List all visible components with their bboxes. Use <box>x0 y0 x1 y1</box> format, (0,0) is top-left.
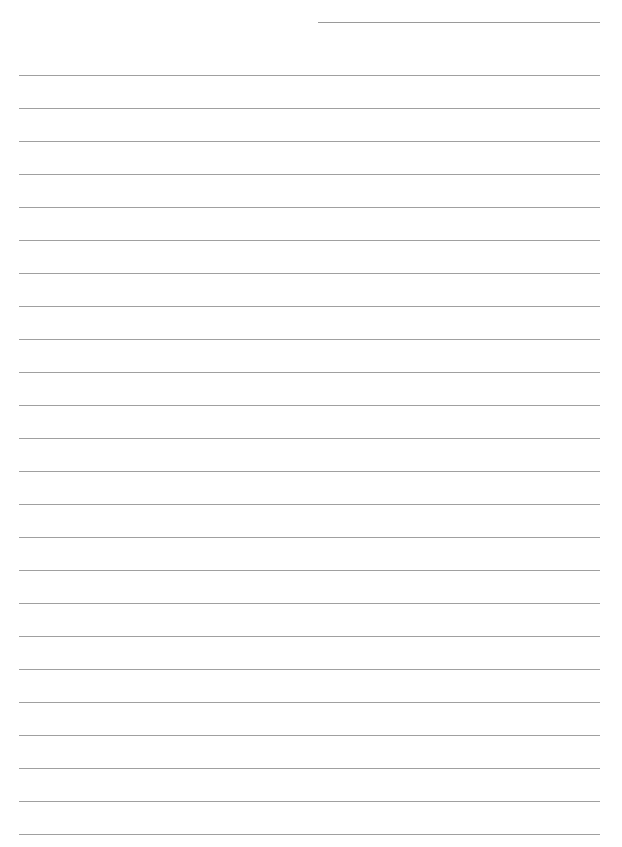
ruled-line <box>19 603 600 604</box>
ruled-line <box>19 801 600 802</box>
ruled-line <box>19 504 600 505</box>
ruled-line <box>19 339 600 340</box>
ruled-line <box>19 75 600 76</box>
ruled-line <box>19 174 600 175</box>
ruled-line <box>19 537 600 538</box>
ruled-line <box>19 636 600 637</box>
ruled-line <box>19 570 600 571</box>
ruled-line <box>19 240 600 241</box>
lined-paper-page <box>0 0 622 847</box>
ruled-line <box>19 207 600 208</box>
ruled-line <box>19 273 600 274</box>
ruled-line <box>19 372 600 373</box>
ruled-line <box>19 471 600 472</box>
ruled-line <box>19 306 600 307</box>
ruled-line <box>19 405 600 406</box>
ruled-line <box>19 834 600 835</box>
ruled-line <box>19 702 600 703</box>
ruled-line <box>19 735 600 736</box>
ruled-line <box>19 438 600 439</box>
ruled-line <box>19 669 600 670</box>
ruled-line <box>19 108 600 109</box>
ruled-line <box>19 141 600 142</box>
ruled-line <box>19 768 600 769</box>
header-name-line <box>318 22 600 23</box>
